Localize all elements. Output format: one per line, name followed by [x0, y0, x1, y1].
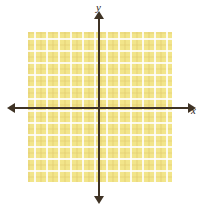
x-axis-line: [10, 107, 190, 109]
coordinate-plane-figure: x y: [0, 0, 206, 206]
arrow-left-icon: [7, 103, 15, 113]
y-axis-label: y: [96, 2, 101, 13]
y-axis-line: [98, 18, 100, 198]
x-axis-label: x: [191, 105, 196, 116]
arrow-down-icon: [94, 196, 104, 204]
